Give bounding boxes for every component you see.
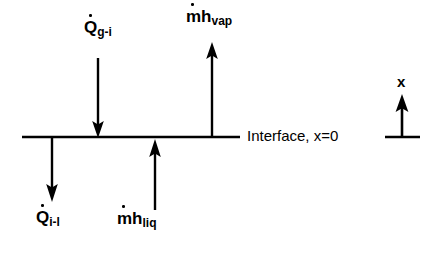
axis-x-label: x xyxy=(397,74,405,89)
overdot-icon xyxy=(191,3,194,6)
q-il-base-glyph: Q xyxy=(36,209,49,226)
diagram-canvas xyxy=(0,0,429,254)
label-enthalpy-flux-liquid: mh liq xyxy=(117,210,157,229)
arrow-q-gas-to-interface xyxy=(92,58,104,138)
mh-liq-subscript: liq xyxy=(143,217,157,229)
arrow-q-interface-to-liquid xyxy=(46,137,58,202)
mh-vap-base-text: mh xyxy=(186,7,212,26)
q-gi-base-glyph: Q xyxy=(84,19,97,36)
overdot-icon xyxy=(41,204,44,207)
mh-vap-subscript: vap xyxy=(212,15,233,27)
mh-liq-base-glyph: mh xyxy=(117,210,143,227)
arrow-mh-liquid xyxy=(149,139,161,210)
axis-indicator xyxy=(385,94,420,137)
q-gi-subscript: g-i xyxy=(97,26,112,38)
overdot-icon xyxy=(122,205,125,208)
overdot-icon xyxy=(89,14,92,17)
label-heat-interface-to-liquid: Q i-l xyxy=(36,209,60,228)
interface-energy-balance-diagram: Q g-i mh vap Q i-l mh liq Interface, x=0… xyxy=(0,0,429,254)
label-enthalpy-flux-vapor: mh vap xyxy=(186,8,232,27)
q-il-subscript: i-l xyxy=(49,216,60,228)
q-gi-base-text: Q xyxy=(84,18,97,37)
arrow-mh-vapor xyxy=(206,42,218,137)
mh-liq-base-text: mh xyxy=(117,209,143,228)
mh-vap-base-glyph: mh xyxy=(186,8,212,25)
label-heat-gas-to-interface: Q g-i xyxy=(84,19,112,38)
q-il-base-text: Q xyxy=(36,208,49,227)
interface-label: Interface, x=0 xyxy=(247,128,338,143)
